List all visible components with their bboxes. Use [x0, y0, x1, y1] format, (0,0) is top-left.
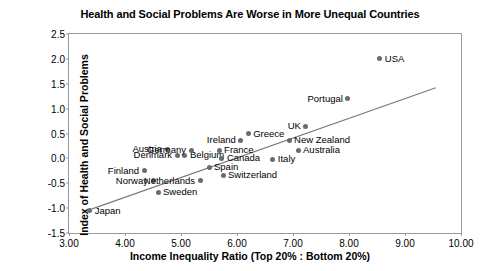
- y-axis-tick-label: 1.0: [51, 103, 65, 114]
- data-point-label: Australia: [303, 146, 340, 156]
- data-point-label: UK: [288, 121, 301, 131]
- x-axis-tick-label: 5.00: [171, 238, 190, 249]
- x-axis-title: Income Inequality Ratio (Top 20% : Botto…: [0, 250, 500, 262]
- x-axis-tick-label: 6.00: [227, 238, 246, 249]
- data-point[interactable]: [156, 190, 161, 195]
- x-axis-tick-mark: [293, 233, 294, 236]
- y-axis-tick-mark: [66, 34, 69, 35]
- x-axis-tick-label: 3.00: [59, 238, 78, 249]
- x-axis-tick-mark: [349, 233, 350, 236]
- x-axis-tick-label: 4.00: [115, 238, 134, 249]
- data-point[interactable]: [198, 178, 203, 183]
- y-axis-tick-mark: [66, 158, 69, 159]
- y-axis-tick-label: -1.0: [48, 203, 65, 214]
- y-axis-tick-label: 0.5: [51, 128, 65, 139]
- plot-inner: JapanFinlandNorwaySwedenDenmarkNetherlan…: [69, 34, 461, 233]
- x-axis-tick-mark: [125, 233, 126, 236]
- y-axis-tick-label: 0.0: [51, 153, 65, 164]
- y-axis-tick-mark: [66, 83, 69, 84]
- data-point[interactable]: [303, 124, 308, 129]
- data-point[interactable]: [221, 173, 226, 178]
- data-point-label: Japan: [95, 206, 121, 216]
- x-axis-tick-label: 10.00: [448, 238, 473, 249]
- data-point-label: Canada: [227, 154, 260, 164]
- x-axis-tick-label: 8.00: [339, 238, 358, 249]
- data-point[interactable]: [207, 165, 212, 170]
- data-point-label: Italy: [278, 155, 295, 165]
- y-axis-tick-mark: [66, 108, 69, 109]
- data-point-label: Portugal: [307, 94, 342, 104]
- data-point-label: Ireland: [207, 136, 236, 146]
- data-point-label: USA: [385, 54, 405, 64]
- data-point[interactable]: [217, 148, 222, 153]
- data-point[interactable]: [189, 148, 194, 153]
- x-axis-tick-label: 7.00: [283, 238, 302, 249]
- chart-figure: Health and Social Problems Are Worse in …: [0, 0, 500, 271]
- data-point-label: Switzerland: [228, 171, 277, 181]
- x-axis-tick-mark: [461, 233, 462, 236]
- data-point[interactable]: [142, 168, 147, 173]
- data-point[interactable]: [246, 131, 251, 136]
- x-axis-tick-mark: [69, 233, 70, 236]
- y-axis-tick-label: 2.0: [51, 53, 65, 64]
- plot-area: Index of Health and Social Problems Japa…: [68, 33, 462, 234]
- data-point[interactable]: [296, 148, 301, 153]
- data-point-label: Sweden: [163, 187, 197, 197]
- data-point-label: Germany: [147, 146, 186, 156]
- x-axis-tick-mark: [237, 233, 238, 236]
- y-axis-tick-label: -0.5: [48, 178, 65, 189]
- y-axis-tick-mark: [66, 58, 69, 59]
- x-axis-tick-label: 9.00: [395, 238, 414, 249]
- x-axis-tick-mark: [405, 233, 406, 236]
- y-axis-tick-mark: [66, 133, 69, 134]
- x-axis-tick-mark: [181, 233, 182, 236]
- y-axis-tick-label: -1.5: [48, 228, 65, 239]
- data-point-label: Netherlands: [144, 176, 195, 186]
- data-point-label: Greece: [253, 129, 284, 139]
- chart-title: Health and Social Problems Are Worse in …: [0, 8, 500, 20]
- y-axis-tick-mark: [66, 208, 69, 209]
- data-point[interactable]: [287, 138, 292, 143]
- y-axis-tick-label: 2.5: [51, 29, 65, 40]
- y-axis-tick-label: 1.5: [51, 78, 65, 89]
- y-axis-tick-mark: [66, 183, 69, 184]
